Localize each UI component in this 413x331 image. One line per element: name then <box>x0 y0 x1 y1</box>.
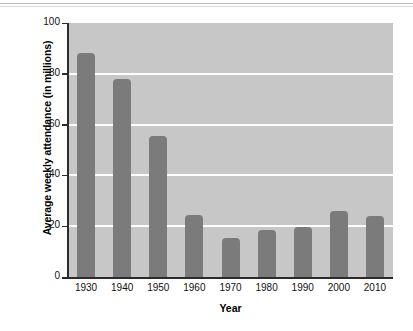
x-tick-label-1930: 1930 <box>66 282 106 293</box>
bar-1950 <box>149 136 167 277</box>
bar-1970 <box>222 238 240 277</box>
bar-2010 <box>366 216 384 277</box>
y-tick-mark-60 <box>62 124 68 126</box>
y-tick-label-60: 60 <box>14 118 60 129</box>
x-tick-label-1950: 1950 <box>138 282 178 293</box>
top-divider-rule-secondary <box>0 6 413 7</box>
y-axis-tick-labels: 020406080100 <box>8 0 60 331</box>
bar-1990 <box>294 227 312 277</box>
bar-1930 <box>77 53 95 277</box>
y-tick-label-0: 0 <box>14 270 60 281</box>
bar-2000 <box>330 211 348 277</box>
x-axis-title: Year <box>68 302 393 314</box>
bar-chart-figure: Average weekly attendance (in millions) … <box>0 0 413 331</box>
x-tick-label-2010: 2010 <box>355 282 395 293</box>
y-axis-line <box>67 23 69 278</box>
x-tick-label-1960: 1960 <box>174 282 214 293</box>
top-divider-rule <box>0 3 413 4</box>
y-tick-mark-100 <box>62 23 68 25</box>
bar-1960 <box>185 215 203 277</box>
y-tick-mark-0 <box>62 277 68 279</box>
x-axis-line <box>62 277 393 279</box>
y-tick-mark-40 <box>62 175 68 177</box>
x-tick-label-1980: 1980 <box>247 282 287 293</box>
gridline-80 <box>68 73 393 75</box>
y-tick-mark-20 <box>62 226 68 228</box>
y-tick-label-20: 20 <box>14 219 60 230</box>
y-tick-label-100: 100 <box>14 16 60 27</box>
x-tick-label-2000: 2000 <box>319 282 359 293</box>
x-tick-label-1990: 1990 <box>283 282 323 293</box>
x-tick-label-1940: 1940 <box>102 282 142 293</box>
y-tick-label-40: 40 <box>14 168 60 179</box>
bar-1980 <box>258 230 276 277</box>
y-tick-mark-80 <box>62 73 68 75</box>
y-tick-label-80: 80 <box>14 67 60 78</box>
bar-1940 <box>113 79 131 277</box>
plot-area <box>68 23 393 277</box>
x-tick-label-1970: 1970 <box>211 282 251 293</box>
